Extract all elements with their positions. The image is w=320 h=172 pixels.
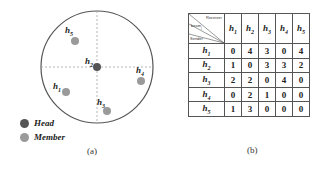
node-h2-label: h2 (85, 57, 93, 68)
beam-matrix-table: Receiver beamj Sender h1 h2 h3 h4 h5 h1 … (188, 13, 310, 117)
header-row: Receiver beamj Sender h1 h2 h3 h4 h5 (189, 14, 310, 44)
row-header-h1: h1 (189, 44, 225, 59)
member-dot-icon (20, 133, 29, 142)
table-row: h2 1 0 3 3 2 (189, 58, 310, 73)
table-cell: 4 (293, 44, 310, 59)
node-h1-dot (62, 88, 70, 96)
node-h3-label: h3 (97, 98, 105, 109)
table-cell: 4 (242, 44, 259, 59)
col-header-h1: h1 (225, 14, 242, 44)
col-header-h5: h5 (293, 14, 310, 44)
table-cell: 1 (259, 87, 276, 102)
table-cell: 0 (259, 73, 276, 88)
table-cell: 0 (293, 102, 310, 117)
legend-head-label: Head (34, 118, 54, 128)
beam-matrix: Receiver beamj Sender h1 h2 h3 h4 h5 h1 … (188, 13, 310, 117)
cluster-diagram-svg (0, 0, 170, 172)
col-header-h4: h4 (276, 14, 293, 44)
corner-beam: beamj (191, 23, 202, 30)
table-cell: 0 (276, 102, 293, 117)
table-cell: 3 (259, 58, 276, 73)
legend-member: Member (20, 132, 65, 142)
table-cell: 2 (242, 73, 259, 88)
cluster-diagram: h5 h2 h4 h1 h3 Head Member (a) (0, 0, 170, 172)
table-cell: 3 (242, 102, 259, 117)
corner-receiver: Receiver (206, 15, 222, 20)
caption-b: (b) (247, 145, 258, 155)
table-cell: 0 (225, 44, 242, 59)
table-cell: 4 (276, 73, 293, 88)
legend-head: Head (20, 118, 54, 128)
col-header-h2: h2 (242, 14, 259, 44)
legend-member-label: Member (34, 132, 65, 142)
corner-cell: Receiver beamj Sender (189, 14, 225, 44)
table-cell: 3 (276, 58, 293, 73)
table-cell: 3 (259, 44, 276, 59)
caption-a: (a) (87, 146, 97, 156)
table-row: h1 0 4 3 0 4 (189, 44, 310, 59)
table-cell: 0 (276, 87, 293, 102)
table-row: h3 2 2 0 4 0 (189, 73, 310, 88)
table-cell: 2 (293, 58, 310, 73)
table-cell: 0 (259, 102, 276, 117)
head-dot-icon (20, 119, 29, 128)
table-cell: 1 (225, 102, 242, 117)
table-cell: 0 (293, 87, 310, 102)
table-cell: 0 (293, 73, 310, 88)
table-row: h5 1 3 0 0 0 (189, 102, 310, 117)
node-h5-dot (71, 37, 79, 45)
table-cell: 0 (276, 44, 293, 59)
col-header-h3: h3 (259, 14, 276, 44)
table-row: h4 0 2 1 0 0 (189, 87, 310, 102)
table-cell: 2 (225, 73, 242, 88)
row-header-h3: h3 (189, 73, 225, 88)
row-header-h4: h4 (189, 87, 225, 102)
node-h4-label: h4 (136, 66, 144, 77)
table-cell: 2 (242, 87, 259, 102)
node-h2-dot (93, 63, 101, 71)
node-h5-label: h5 (65, 26, 73, 37)
table-cell: 0 (242, 58, 259, 73)
table-cell: 0 (225, 87, 242, 102)
node-h4-dot (137, 77, 145, 85)
corner-sender: Sender (190, 36, 203, 41)
row-header-h5: h5 (189, 102, 225, 117)
node-h1-label: h1 (53, 82, 61, 93)
table-cell: 1 (225, 58, 242, 73)
row-header-h2: h2 (189, 58, 225, 73)
